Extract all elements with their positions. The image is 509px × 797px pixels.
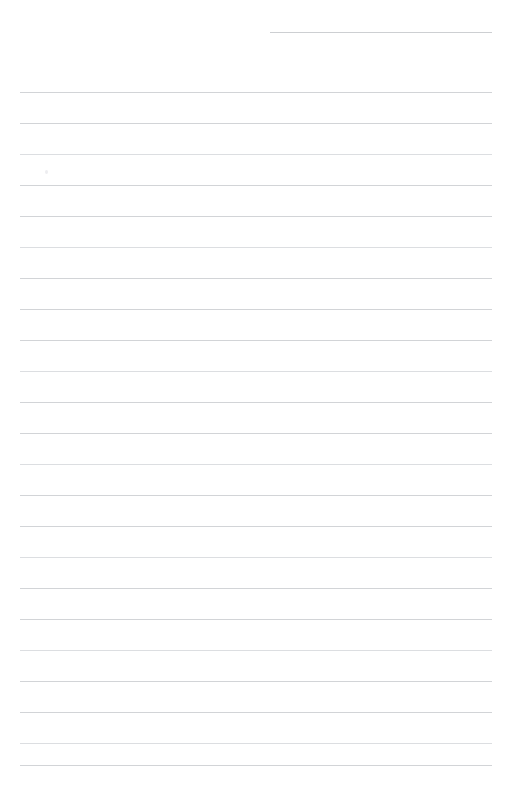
rule-line	[20, 309, 492, 310]
header-rule	[270, 32, 492, 33]
rule-line	[20, 433, 492, 434]
rule-line	[20, 557, 492, 558]
rule-line	[20, 588, 492, 589]
paper-speck	[45, 170, 48, 174]
rule-line	[20, 247, 492, 248]
rule-line	[20, 743, 492, 744]
writing-area[interactable]	[0, 0, 509, 797]
rule-line	[20, 278, 492, 279]
rule-line	[20, 765, 492, 766]
rule-line	[20, 526, 492, 527]
rule-line	[20, 650, 492, 651]
rule-line	[20, 216, 492, 217]
rule-line	[20, 123, 492, 124]
rule-line	[20, 402, 492, 403]
rule-line	[20, 154, 492, 155]
lined-paper-page	[0, 0, 509, 797]
rule-line	[20, 185, 492, 186]
rule-line	[20, 340, 492, 341]
rule-line	[20, 92, 492, 93]
rule-line	[20, 464, 492, 465]
rule-line	[20, 495, 492, 496]
rule-line	[20, 681, 492, 682]
rule-line	[20, 619, 492, 620]
rule-line	[20, 712, 492, 713]
rule-line	[20, 371, 492, 372]
